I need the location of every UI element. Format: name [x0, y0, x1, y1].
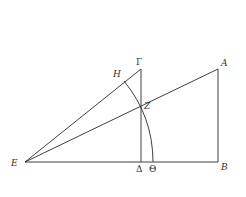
geometric-diagram: E Δ Θ B Γ A H Z [0, 0, 246, 197]
label-Theta: Θ [149, 164, 156, 174]
label-Gamma: Γ [136, 57, 142, 67]
label-A: A [220, 58, 228, 68]
label-E: E [10, 158, 18, 168]
label-H: H [112, 69, 121, 79]
arc-HTheta [124, 81, 153, 162]
segment-EGamma [25, 69, 141, 162]
segment-EA [25, 69, 218, 162]
label-Z: Z [143, 101, 151, 111]
label-Delta: Δ [136, 164, 143, 174]
label-B: B [220, 162, 228, 172]
